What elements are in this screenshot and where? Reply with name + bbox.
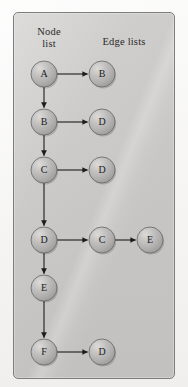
node-circle-B[interactable] <box>31 109 57 135</box>
node-circle-F[interactable] <box>31 339 57 365</box>
node-circle-C[interactable] <box>89 227 115 253</box>
node-circle-E[interactable] <box>31 275 57 301</box>
column-heading-edge-lists: Edge lists <box>86 36 162 48</box>
node-circle-D[interactable] <box>89 157 115 183</box>
node-circle-D[interactable] <box>31 227 57 253</box>
node-circle-D[interactable] <box>89 339 115 365</box>
figure-root: Node list Edge lists ABBDCDDCEEFD <box>0 0 188 387</box>
column-heading-node-list: Node list <box>22 26 76 49</box>
node-circle-E[interactable] <box>137 227 163 253</box>
node-circle-C[interactable] <box>31 157 57 183</box>
node-circle-D[interactable] <box>89 109 115 135</box>
node-circle-B[interactable] <box>89 61 115 87</box>
nodes-layer <box>31 61 164 367</box>
edges-layer <box>44 74 136 352</box>
node-circle-A[interactable] <box>31 61 57 87</box>
adjacency-list-diagram <box>0 0 188 387</box>
